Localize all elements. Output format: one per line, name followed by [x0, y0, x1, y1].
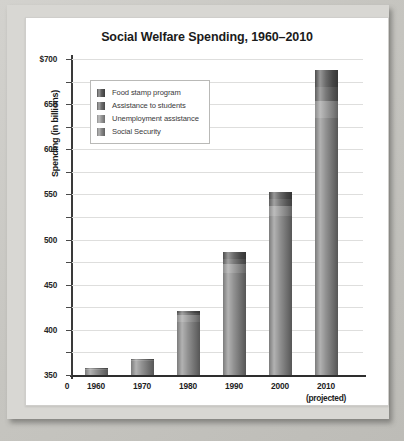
y-axis-tick-label: 450	[44, 280, 57, 289]
bar-segment	[223, 273, 246, 375]
y-axis-tick: 150	[66, 307, 72, 308]
legend-swatch-icon	[97, 115, 105, 123]
y-axis-tick: 500	[66, 149, 72, 150]
x-axis-zero-label: 0	[60, 381, 74, 391]
bar-segment	[269, 216, 292, 375]
legend-item-label: Food stamp program	[112, 88, 181, 97]
legend-item: Assistance to students	[97, 99, 199, 112]
x-axis-line	[70, 375, 366, 377]
y-axis-tick-label: 650	[44, 100, 57, 109]
legend-swatch-icon	[97, 89, 105, 97]
legend-item-label: Unemployment assistance	[112, 114, 199, 123]
y-axis-tick: 450	[66, 172, 72, 173]
bar-1990	[223, 252, 246, 375]
bar-segment	[85, 370, 108, 375]
y-axis-tick-label: 600	[44, 145, 57, 154]
y-axis-tick: 350	[66, 217, 72, 218]
bar-segment	[131, 361, 154, 375]
bar-segment	[315, 87, 338, 102]
bar-segment	[269, 199, 292, 206]
x-axis-tick-label: 2010	[298, 381, 354, 391]
x-axis-title: Year	[72, 404, 363, 406]
y-axis-tick: 400	[66, 194, 72, 195]
y-axis-tick: 100	[66, 330, 72, 331]
chart-legend: Food stamp programAssistance to students…	[90, 80, 210, 144]
y-axis-tick-label: 350	[44, 371, 57, 380]
x-axis-tick-sublabel: (projected)	[296, 393, 356, 403]
bar-1970	[131, 359, 154, 375]
y-axis-tick-label: 500	[44, 235, 57, 244]
y-axis-tick: 200	[66, 285, 72, 286]
legend-item: Unemployment assistance	[97, 112, 199, 125]
bar-segment	[269, 206, 292, 215]
bar-segment	[315, 70, 338, 87]
bar-2000	[269, 192, 292, 375]
y-axis-tick: 50	[66, 352, 72, 353]
bar-segment	[269, 192, 292, 199]
y-axis-tick: 650	[66, 82, 72, 83]
bar-1960	[85, 368, 108, 375]
y-axis-tick: $700	[66, 59, 72, 60]
legend-swatch-icon	[97, 128, 105, 136]
y-axis-tick: 250	[66, 262, 72, 263]
y-axis-tick: 300	[66, 240, 72, 241]
y-axis-tick-label: $700	[40, 55, 57, 64]
bar-segment	[223, 264, 246, 272]
figure-mat: Social Welfare Spending, 1960–2010 Spend…	[7, 5, 389, 419]
bar-segment	[177, 322, 200, 375]
legend-swatch-icon	[97, 102, 105, 110]
legend-item-label: Assistance to students	[112, 101, 186, 110]
y-axis-tick: 0	[66, 375, 72, 376]
bar-segment	[315, 118, 338, 375]
legend-item: Food stamp program	[97, 86, 199, 99]
chart-card: Social Welfare Spending, 1960–2010 Spend…	[25, 17, 389, 406]
bar-2010	[315, 70, 338, 375]
y-axis-tick-label: 400	[44, 325, 57, 334]
y-axis-tick: 550	[66, 127, 72, 128]
page-background: Social Welfare Spending, 1960–2010 Spend…	[0, 0, 404, 441]
bar-segment	[177, 315, 200, 322]
gridline	[72, 59, 363, 60]
plot-area: Spending (in billions) 05010015020025030…	[72, 59, 363, 375]
bar-segment	[315, 101, 338, 117]
y-axis-tick: 600	[66, 104, 72, 105]
bar-1980	[177, 311, 200, 375]
y-axis-tick-label: 550	[44, 190, 57, 199]
chart-title: Social Welfare Spending, 1960–2010	[26, 30, 388, 44]
legend-item: Social Security	[97, 125, 199, 138]
legend-item-label: Social Security	[112, 127, 161, 136]
